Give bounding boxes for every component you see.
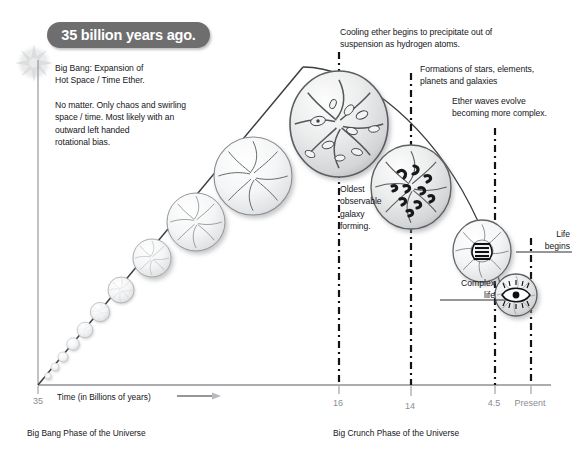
sphere-group-early (45, 302, 110, 379)
annotation-big-bang: Big Bang: Expansion of Hot Space / Time … (55, 62, 235, 87)
time-arrow-icon (177, 393, 221, 400)
sphere-11-oldest-galaxy (290, 71, 388, 177)
x-tick-label-16: 16 (318, 398, 358, 408)
sphere-8 (133, 239, 171, 277)
annotation-ether-waves: Ether waves evolve becoming more complex… (452, 95, 586, 120)
x-tick-label-present: Present (510, 398, 550, 408)
sphere-14-complex-life (495, 274, 537, 316)
annotation-oldest-galaxy: Oldest observable galaxy forming. (340, 183, 400, 233)
annotation-cooling-ether: Cooling ether begins to precipitate out … (340, 26, 556, 51)
label-complex-life: Complex life (440, 278, 495, 301)
phase-label-big-bang: Big Bang Phase of the Universe (27, 428, 146, 438)
x-tick-label-14: 14 (390, 401, 430, 411)
x-axis-title: Time (in Billions of years) (57, 392, 151, 402)
sphere-9 (167, 193, 225, 251)
annotation-no-matter: No matter. Only chaos and swirling space… (55, 99, 265, 149)
sphere-10 (214, 137, 292, 215)
starburst-icon (15, 44, 53, 82)
annotation-formations: Formations of stars, elements, planets a… (420, 63, 580, 88)
sphere-13-life-begins (453, 220, 511, 282)
diagram-canvas: 35 billion years ago. Big Bang: Expansio… (0, 0, 586, 458)
page-title: 35 billion years ago. (47, 22, 210, 48)
phase-label-big-crunch: Big Crunch Phase of the Universe (333, 428, 459, 438)
title-banner: 35 billion years ago. (47, 22, 210, 48)
label-life-begins: Life begins (515, 229, 570, 252)
dna-ladder-icon (472, 243, 492, 260)
x-tick-label-35: 35 (18, 396, 58, 406)
x-tick-label-4-5: 4.5 (474, 398, 514, 408)
sphere-7 (108, 277, 134, 303)
